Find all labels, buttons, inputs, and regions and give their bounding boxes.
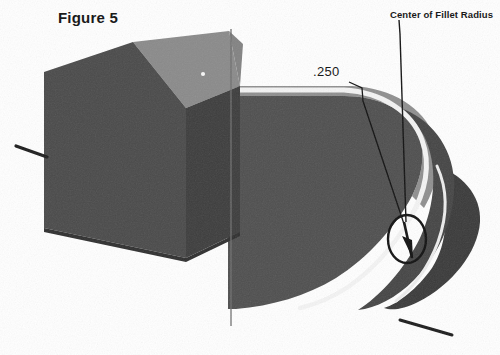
extrusion-body-face [228, 96, 422, 309]
figure-title: Figure 5 [58, 9, 118, 26]
block-right-face [186, 86, 240, 258]
isometric-part-drawing [0, 0, 500, 355]
highlight-speck [201, 72, 205, 76]
left-edge-leader-line [16, 146, 47, 157]
bottom-right-leader-line [400, 320, 452, 335]
fillet-radius-callout-label: Center of Fillet Radius [390, 9, 493, 20]
figure-canvas: Figure 5 Center of Fillet Radius .250 [0, 0, 500, 355]
fillet-center-arrowhead [402, 236, 413, 259]
dimension-value-label: .250 [313, 64, 340, 79]
